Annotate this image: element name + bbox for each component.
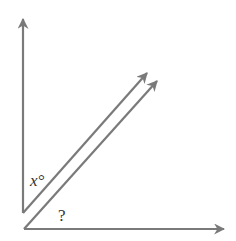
lower-diagonal-ray (24, 81, 157, 229)
angle-x-label: x° (29, 171, 45, 190)
upper-diagonal-ray (23, 73, 147, 213)
angle-diagram: x° ? (0, 0, 236, 241)
angle-unknown-label: ? (58, 206, 66, 225)
